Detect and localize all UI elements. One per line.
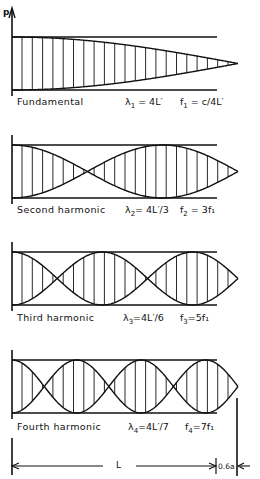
wavelength-eq-2: λ2= 4L′/3 (125, 205, 169, 218)
panel-label-second-harmonic: Second harmonic (17, 205, 106, 215)
panel-label-third-harmonic: Third harmonic (17, 313, 94, 323)
pressure-axis-label: p (3, 7, 9, 17)
frequency-eq-3: f3=5f₁ (180, 313, 209, 326)
frequency-eq-1: f1 = c/4L′ (180, 97, 224, 110)
standing-wave-diagram: p Fundamental Second harmonic Third harm… (0, 0, 260, 479)
wavelength-eq-3: λ3=4L′/6 (123, 313, 164, 326)
end-correction-label: 0.6a (218, 462, 235, 471)
wavelength-eq-4: λ4=4L′/7 (128, 422, 169, 435)
panel-label-fourth-harmonic: Fourth harmonic (17, 422, 101, 432)
waveform-canvas (0, 0, 260, 479)
length-dimension-label: L (116, 460, 121, 470)
panel-label-fundamental: Fundamental (17, 97, 84, 107)
wavelength-eq-1: λ1 = 4L′ (125, 97, 163, 110)
frequency-eq-4: f4=7f₁ (185, 422, 214, 435)
frequency-eq-2: f2 = 3f₁ (180, 205, 215, 218)
